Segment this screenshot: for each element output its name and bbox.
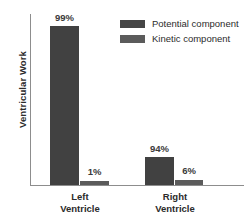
bar-left-ventricle-potential: [50, 26, 79, 185]
category-label-right-ventricle-line2: Ventricle: [143, 203, 207, 215]
bar-right-ventricle-potential: [145, 157, 174, 185]
category-label-left-ventricle: Left Ventricle: [48, 191, 112, 214]
bar-label-left-ventricle-kinetic: 1%: [80, 166, 109, 177]
legend-item-potential: Potential component: [120, 17, 239, 30]
category-label-left-ventricle-line1: Left: [48, 191, 112, 203]
bar-label-left-ventricle-potential: 99%: [50, 12, 79, 23]
bar-left-ventricle-kinetic: [80, 181, 109, 185]
legend-item-kinetic: Kinetic component: [120, 32, 239, 45]
bar-label-right-ventricle-kinetic: 6%: [175, 165, 203, 176]
legend-swatch-kinetic-icon: [120, 35, 145, 43]
legend-label-potential: Potential component: [152, 18, 239, 29]
bar-chart: Ventricular Work 99% 1% 94% 6% Left Vent…: [0, 0, 251, 224]
bar-right-ventricle-kinetic: [175, 180, 203, 185]
category-label-left-ventricle-line2: Ventricle: [48, 203, 112, 215]
legend: Potential component Kinetic component: [120, 17, 239, 47]
legend-swatch-potential-icon: [120, 20, 145, 28]
legend-label-kinetic: Kinetic component: [152, 33, 230, 44]
bar-label-right-ventricle-potential: 94%: [145, 143, 174, 154]
category-label-right-ventricle-line1: Right: [143, 191, 207, 203]
category-label-right-ventricle: Right Ventricle: [143, 191, 207, 214]
